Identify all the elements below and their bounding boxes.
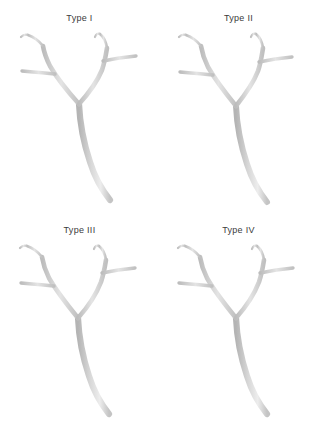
left-upper-fork [28, 35, 43, 46]
right-upper-fork [100, 34, 107, 48]
vessel-diagram-type-1 [0, 26, 159, 212]
left-primary-branch [200, 257, 236, 318]
left-lateral-branch [22, 71, 55, 74]
main-trunk [236, 106, 267, 202]
right-upper-fork [256, 34, 263, 48]
main-trunk [79, 104, 110, 200]
right-primary-branch [78, 260, 106, 318]
left-upper-fork-tip [178, 246, 185, 248]
left-upper-fork-tip [20, 246, 27, 248]
right-primary-branch [236, 48, 263, 106]
vessel-diagram-type-3 [0, 238, 159, 424]
right-upper-fork-tip [251, 34, 256, 37]
left-primary-branch [42, 257, 78, 318]
main-trunk [78, 318, 109, 414]
left-lateral-branch [180, 72, 213, 75]
panel-type-1: Type I [0, 0, 159, 212]
right-upper-fork [257, 246, 264, 260]
panel-label-type-4: Type IV [159, 225, 318, 236]
vessel-diagram-type-2 [159, 26, 318, 212]
main-trunk [236, 318, 267, 414]
left-upper-fork-tip [21, 35, 28, 37]
panel-type-2: Type II [159, 0, 318, 212]
right-lateral-branch [102, 268, 135, 273]
vessel-diagram-type-4 [159, 238, 318, 424]
right-upper-fork-tip [94, 246, 99, 249]
right-primary-branch [79, 48, 107, 104]
left-upper-fork [185, 246, 200, 257]
right-lateral-branch [260, 268, 293, 273]
right-lateral-branch [103, 56, 136, 61]
panel-type-4: Type IV [159, 212, 318, 424]
right-upper-fork-tip [252, 246, 257, 249]
panel-label-type-1: Type I [0, 13, 159, 24]
panel-type-3: Type III [0, 212, 159, 424]
left-lateral-branch [21, 283, 54, 286]
vessel-type-figure: Type I [0, 0, 318, 424]
right-upper-fork [99, 246, 106, 260]
left-upper-fork [27, 246, 42, 257]
panel-label-type-3: Type III [0, 225, 159, 236]
right-primary-branch [236, 260, 264, 318]
left-lateral-branch [179, 283, 212, 286]
left-upper-fork-tip [179, 35, 186, 37]
right-lateral-branch [259, 57, 292, 62]
right-upper-fork-tip [95, 34, 100, 37]
left-upper-fork [186, 35, 201, 46]
panel-label-type-2: Type II [159, 13, 318, 24]
